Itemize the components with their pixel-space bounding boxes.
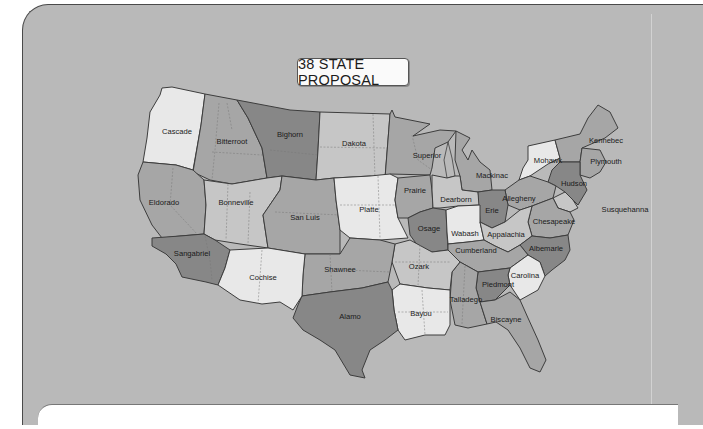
label-erie: Erie bbox=[485, 206, 499, 215]
label-allegheny: Allegheny bbox=[502, 194, 536, 203]
label-chesapeake: Chesapeake bbox=[533, 217, 576, 226]
label-prairie: Prairie bbox=[404, 186, 426, 195]
label-wabash: Wabash bbox=[451, 229, 479, 238]
label-hudson: Hudson bbox=[561, 179, 587, 188]
region-alamo[interactable] bbox=[293, 282, 398, 378]
label-sangabriel: Sangabriel bbox=[174, 249, 211, 258]
region-biscayne[interactable] bbox=[480, 292, 546, 372]
label-shawnee: Shawnee bbox=[324, 265, 356, 274]
label-kennebec: Kennebec bbox=[589, 136, 623, 145]
label-albemarle: Albemarle bbox=[529, 244, 563, 253]
label-carolina: Carolina bbox=[511, 271, 540, 280]
label-biscayne: Biscayne bbox=[491, 315, 522, 324]
label-bonneville: Bonneville bbox=[218, 198, 253, 207]
label-platte: Platte bbox=[359, 205, 378, 214]
label-cumberland: Cumberland bbox=[455, 246, 496, 255]
label-appalachia: Appalachia bbox=[487, 230, 525, 239]
label-eldorado: Eldorado bbox=[149, 198, 179, 207]
label-dakota: Dakota bbox=[342, 139, 367, 148]
label-osage: Osage bbox=[418, 224, 440, 233]
label-ozark: Ozark bbox=[409, 262, 429, 271]
label-mohawk: Mohawk bbox=[534, 156, 562, 165]
label-susquehanna: Susquehanna bbox=[602, 205, 650, 214]
label-bayou: Bayou bbox=[410, 309, 432, 318]
region-wabash[interactable] bbox=[446, 205, 484, 244]
map-title: 38 STATE PROPOSAL bbox=[297, 58, 409, 86]
label-dearborn: Dearborn bbox=[440, 195, 472, 204]
label-san-luis: San Luis bbox=[290, 213, 320, 222]
label-talladego: Talladego bbox=[450, 295, 483, 304]
label-cochise: Cochise bbox=[249, 273, 276, 282]
label-superior: Superior bbox=[413, 151, 442, 160]
label-bitterroot: Bitterroot bbox=[217, 137, 249, 146]
label-plymouth: Plymouth bbox=[590, 157, 622, 166]
label-mackinac: Mackinac bbox=[476, 171, 508, 180]
label-cascade: Cascade bbox=[162, 127, 192, 136]
label-piedmont: Piedmont bbox=[482, 280, 515, 289]
region-sangabriel[interactable] bbox=[152, 234, 230, 285]
label-bighorn: Bighorn bbox=[277, 130, 303, 139]
label-alamo: Alamo bbox=[339, 312, 361, 321]
